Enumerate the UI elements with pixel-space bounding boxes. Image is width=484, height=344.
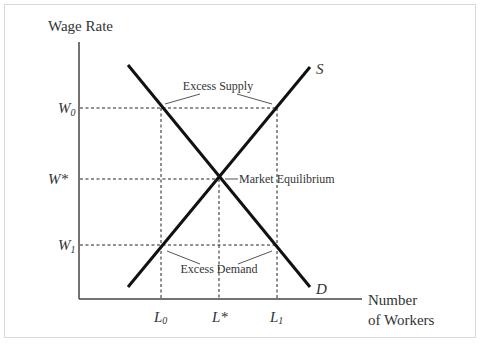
excess-supply-leader-left (165, 94, 200, 104)
y-axis-title: Wage Rate (48, 18, 113, 34)
demand-curve-label: D (315, 281, 327, 297)
y-tick-w1: W1 (58, 237, 76, 255)
market-equilibrium-label: Market Equilibrium (239, 172, 335, 186)
excess-supply-label: Excess Supply (183, 79, 253, 93)
x-tick-l0: L0 (153, 309, 167, 326)
excess-supply-leader-right (237, 94, 272, 104)
labor-market-diagram: Wage Rate Number of Workers W0 W* W1 L0 … (0, 0, 484, 344)
y-tick-wstar: W* (48, 171, 69, 187)
supply-curve-label: S (316, 61, 324, 77)
x-tick-lstar: L* (211, 309, 228, 325)
x-axis-title-line2: of Workers (368, 312, 435, 328)
excess-demand-label: Excess Demand (181, 262, 258, 276)
x-tick-l1: L1 (269, 309, 283, 326)
y-tick-w0: W0 (58, 100, 76, 118)
x-axis-title-line1: Number (368, 292, 417, 308)
